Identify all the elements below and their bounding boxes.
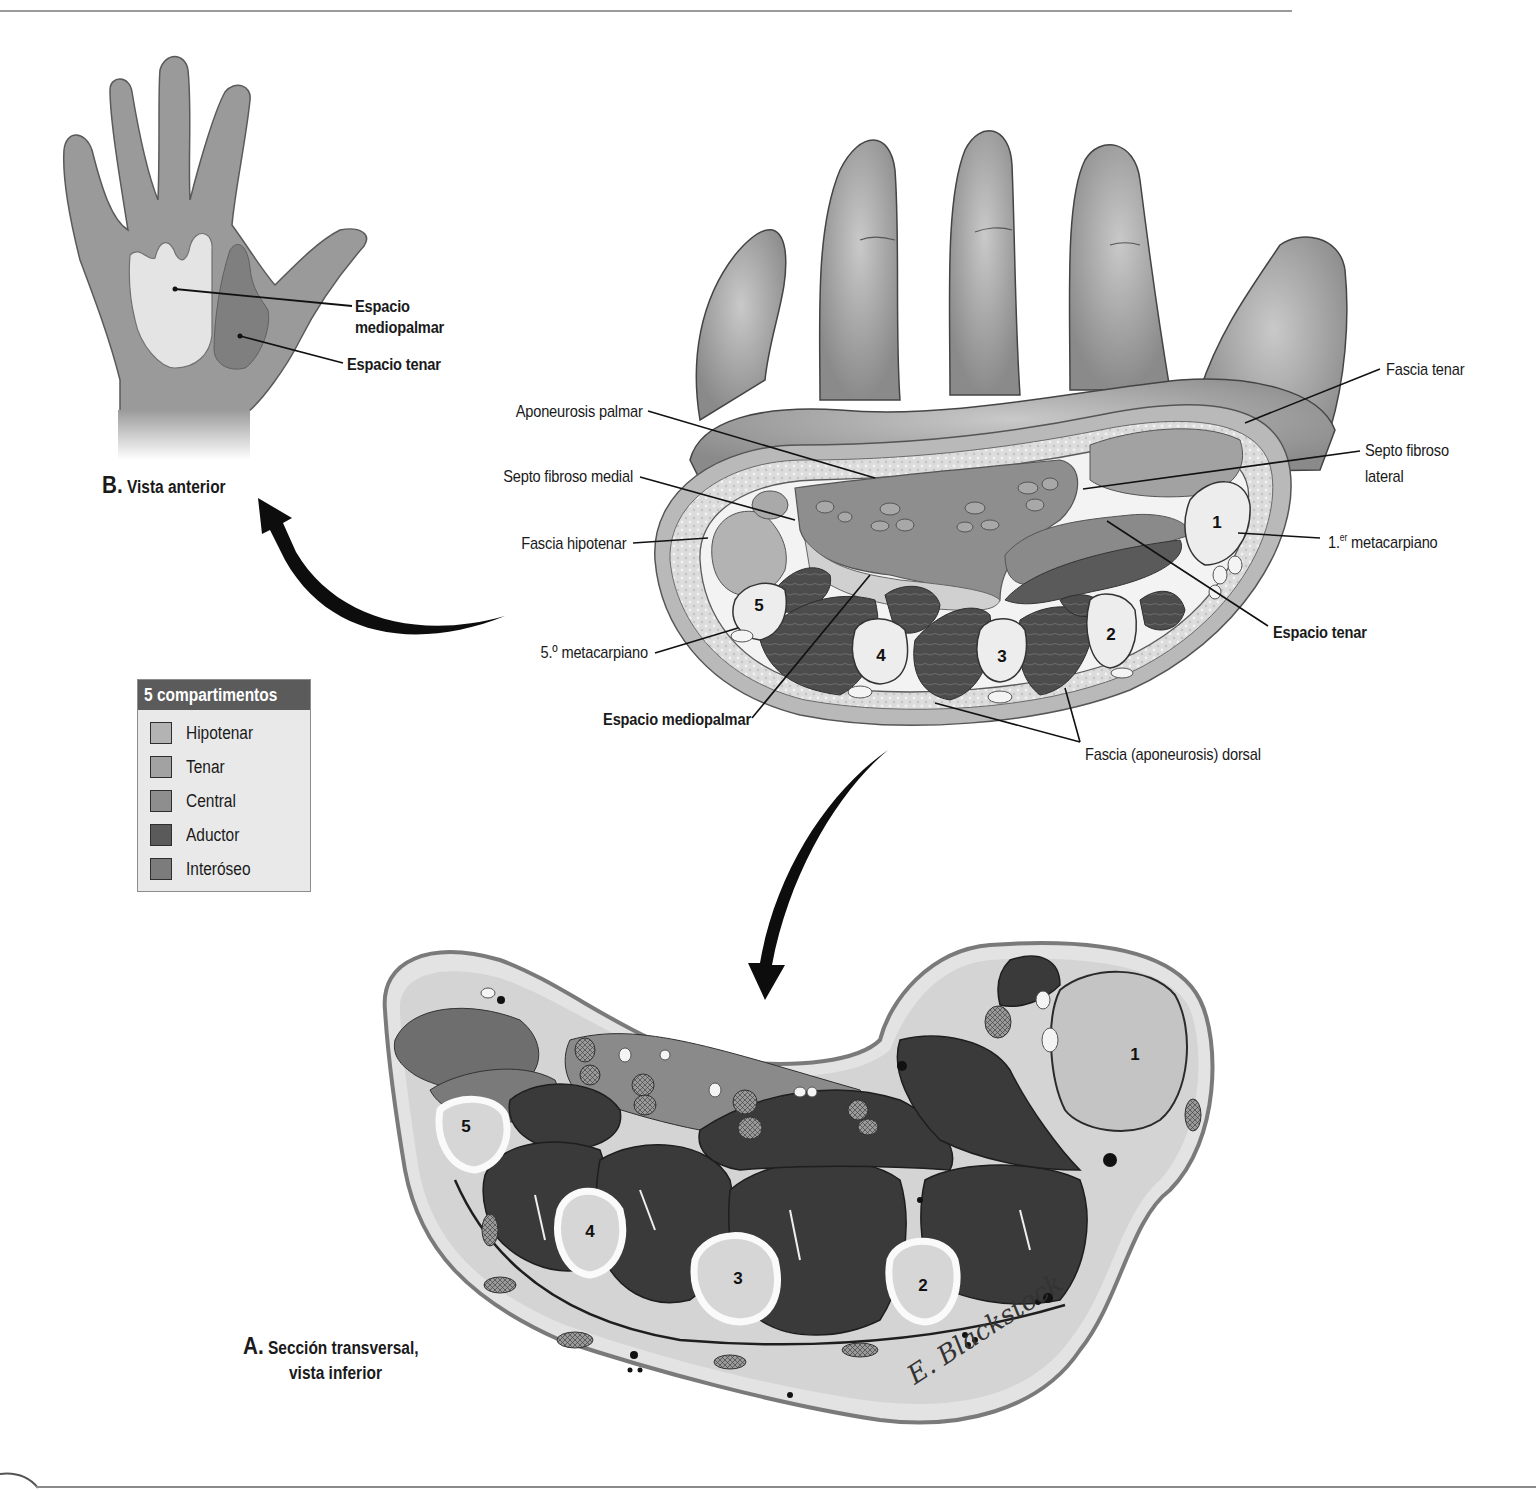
bone-number-5-upper: 5: [754, 596, 763, 616]
label-quinto-metacarpiano: 5.º metacarpiano: [541, 643, 648, 663]
label-septo-fibroso-medial: Septo fibroso medial: [503, 467, 633, 487]
legend-swatch-hipotenar: [150, 722, 172, 744]
legend-item-interoseo: Interóseo: [138, 852, 310, 886]
label-fascia-tenar: Fascia tenar: [1386, 360, 1464, 380]
caption-b-text: Vista anterior: [127, 477, 226, 497]
panel-b-hand: [64, 57, 367, 461]
arrow-to-panel-a: [748, 750, 888, 1000]
legend-item-aductor: Aductor: [138, 818, 310, 852]
legend-item-hipotenar: Hipotenar: [138, 716, 310, 750]
bone-number-2-upper: 2: [1106, 625, 1115, 645]
corner-curve: [0, 1474, 38, 1488]
legend-swatch-aductor: [150, 824, 172, 846]
legend-swatch-central: [150, 790, 172, 812]
label-septo-fibroso-lateral-1: Septo fibroso: [1365, 441, 1449, 461]
bone-number-3-upper: 3: [997, 647, 1006, 667]
label-b-espacio-mediopalmar-1: Espacio: [355, 297, 410, 317]
label-septo-fibroso-lateral-2: lateral: [1365, 467, 1404, 487]
legend-swatch-interoseo: [150, 858, 172, 880]
label-fascia-dorsal: Fascia (aponeurosis) dorsal: [1085, 745, 1261, 765]
label-primer-metacarpiano: 1.er metacarpiano: [1328, 528, 1438, 553]
caption-b-letter: B.: [102, 471, 123, 498]
bone-number-5-lower: 5: [461, 1117, 470, 1137]
caption-panel-b: B. Vista anterior: [102, 474, 226, 498]
bone-number-1-lower: 1: [1130, 1045, 1139, 1065]
bone-number-1-upper: 1: [1212, 513, 1221, 533]
legend-item-tenar: Tenar: [138, 750, 310, 784]
legend-title: 5 compartimentos: [138, 680, 310, 710]
caption-panel-a: A. Sección transversal,: [243, 1335, 419, 1359]
label-b-espacio-tenar: Espacio tenar: [347, 355, 441, 375]
panel-a-cross-section: [385, 943, 1213, 1422]
bone-number-2-lower: 2: [918, 1276, 927, 1296]
legend-item-central: Central: [138, 784, 310, 818]
bottom-rule: [36, 1486, 1536, 1488]
label-espacio-mediopalmar: Espacio mediopalmar: [603, 710, 751, 730]
bone-number-3-lower: 3: [733, 1269, 742, 1289]
label-b-espacio-mediopalmar-2: mediopalmar: [355, 318, 444, 338]
label-aponeurosis-palmar: Aponeurosis palmar: [516, 402, 643, 422]
legend-swatch-tenar: [150, 756, 172, 778]
label-fascia-hipotenar: Fascia hipotenar: [521, 534, 626, 554]
bone-number-4-upper: 4: [876, 646, 885, 666]
caption-panel-a-line2: vista inferior: [289, 1362, 382, 1384]
compartments-legend: 5 compartimentos Hipotenar Tenar Central…: [137, 679, 311, 892]
bone-number-4-lower: 4: [585, 1222, 594, 1242]
arrow-to-panel-b: [258, 498, 505, 634]
label-espacio-tenar: Espacio tenar: [1273, 623, 1367, 643]
